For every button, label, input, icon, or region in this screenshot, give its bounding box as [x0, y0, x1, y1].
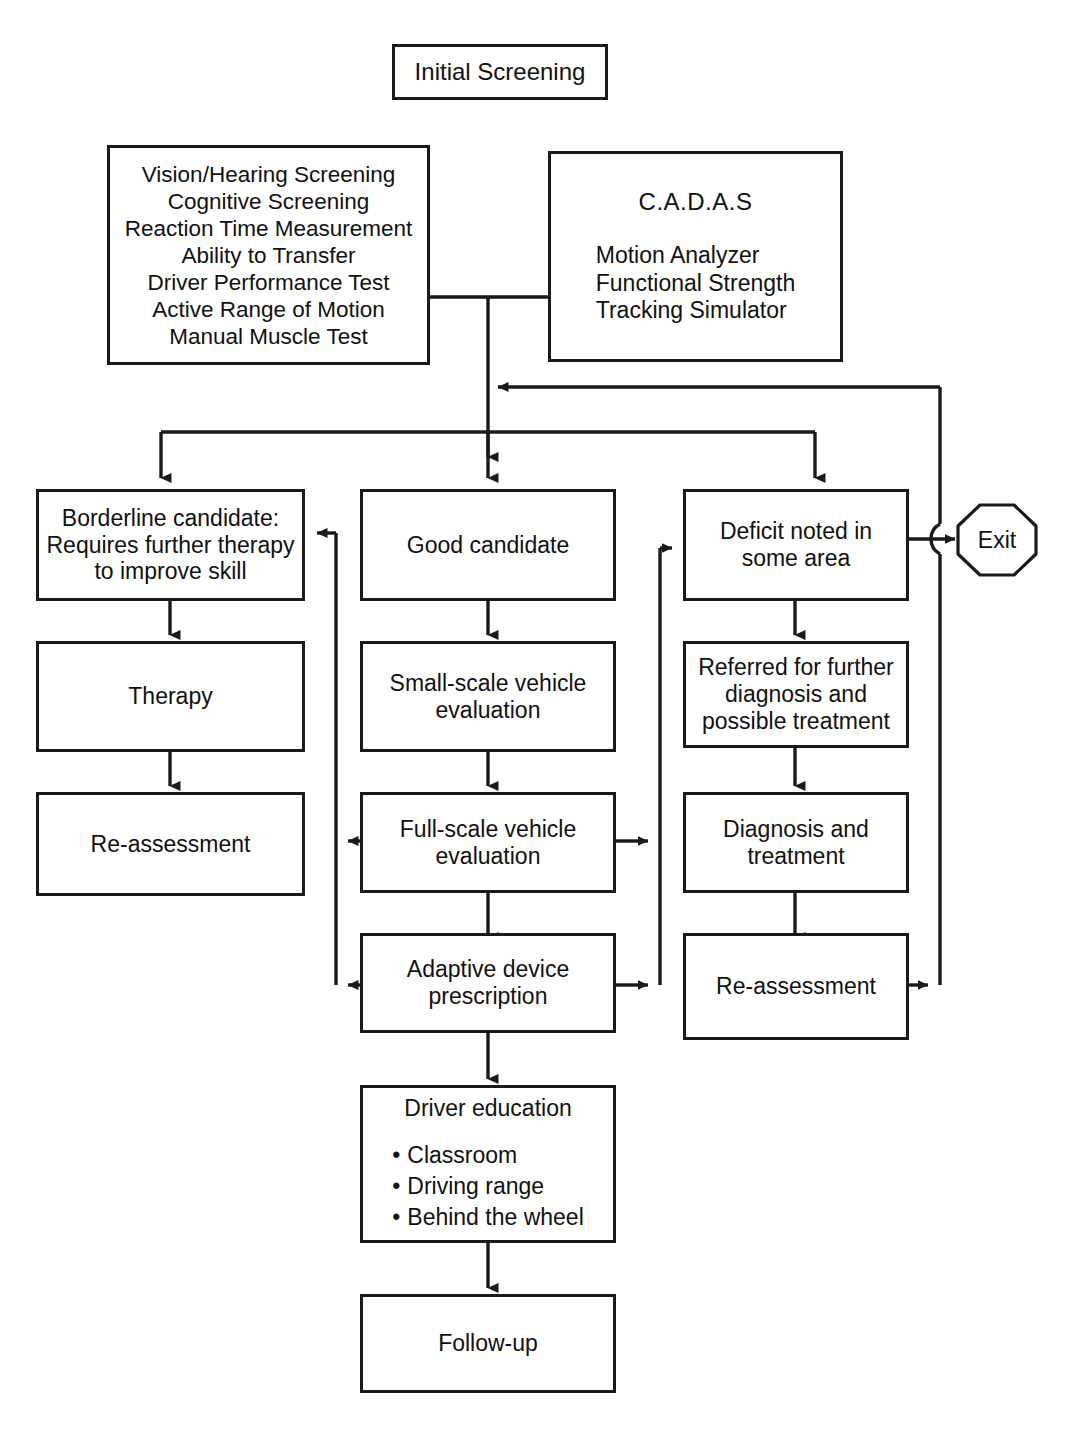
good-candidate-label: Good candidate [407, 532, 569, 559]
exit-label: Exit [978, 527, 1016, 554]
adaptive-line: prescription [429, 983, 548, 1010]
screening-item: Active Range of Motion [125, 296, 413, 323]
driver-education-item: •Classroom [392, 1140, 584, 1171]
full-scale-line: Full-scale vehicle [400, 816, 576, 843]
node-cadas[interactable]: C.A.D.A.S Motion Analyzer Functional Str… [548, 151, 843, 362]
cadas-item: Functional Strength [596, 270, 795, 298]
screening-tests-list: Vision/Hearing Screening Cognitive Scree… [125, 161, 413, 350]
therapy-label: Therapy [128, 683, 212, 710]
node-referred-for-diagnosis[interactable]: Referred for further diagnosis and possi… [683, 641, 909, 748]
node-reassessment-left[interactable]: Re-assessment [36, 792, 305, 896]
node-adaptive-device-prescription[interactable]: Adaptive device prescription [360, 933, 616, 1033]
node-good-candidate[interactable]: Good candidate [360, 489, 616, 601]
node-small-scale-evaluation[interactable]: Small-scale vehicle evaluation [360, 641, 616, 752]
wire-return-riser-left [317, 533, 360, 985]
driver-education-heading: Driver education [404, 1095, 571, 1122]
node-screening-tests[interactable]: Vision/Hearing Screening Cognitive Scree… [107, 145, 430, 365]
bullet-icon: • [392, 1173, 400, 1199]
small-scale-line: evaluation [436, 697, 541, 724]
borderline-line: Borderline candidate: [62, 505, 279, 532]
node-exit[interactable]: Exit [956, 503, 1038, 577]
cadas-item: Tracking Simulator [596, 297, 795, 325]
wire-line-jump-arc [931, 524, 940, 554]
flowchart-canvas: Initial Screening Vision/Hearing Screeni… [0, 0, 1066, 1429]
bullet-icon: • [392, 1142, 400, 1168]
deficit-line: some area [742, 545, 851, 572]
borderline-line: Requires further therapy [46, 532, 294, 559]
initial-screening-label: Initial Screening [415, 58, 586, 86]
follow-up-label: Follow-up [438, 1330, 538, 1357]
node-therapy[interactable]: Therapy [36, 641, 305, 752]
deficit-line: Deficit noted in [720, 518, 872, 545]
screening-item: Cognitive Screening [125, 188, 413, 215]
bullet-icon: • [392, 1204, 400, 1230]
driver-education-list: •Classroom •Driving range •Behind the wh… [392, 1140, 584, 1233]
node-diagnosis-and-treatment[interactable]: Diagnosis and treatment [683, 792, 909, 893]
wire-screening-merge-bar [430, 297, 548, 457]
diagnosis-line: treatment [747, 843, 844, 870]
node-driver-education[interactable]: Driver education •Classroom •Driving ran… [360, 1085, 616, 1243]
referred-line: Referred for further [698, 654, 894, 681]
node-follow-up[interactable]: Follow-up [360, 1294, 616, 1393]
cadas-item: Motion Analyzer [596, 242, 795, 270]
node-full-scale-evaluation[interactable]: Full-scale vehicle evaluation [360, 792, 616, 893]
screening-item: Driver Performance Test [125, 269, 413, 296]
driver-education-item: •Behind the wheel [392, 1202, 584, 1233]
screening-item: Manual Muscle Test [125, 323, 413, 350]
small-scale-line: Small-scale vehicle [390, 670, 587, 697]
wire-far-right-return [909, 387, 940, 985]
full-scale-line: evaluation [436, 843, 541, 870]
node-initial-screening[interactable]: Initial Screening [392, 44, 608, 100]
wire-distribution-bar [161, 432, 815, 478]
cadas-item-list: Motion Analyzer Functional Strength Trac… [596, 242, 795, 325]
screening-item: Vision/Hearing Screening [125, 161, 413, 188]
screening-item: Ability to Transfer [125, 242, 413, 269]
referred-line: possible treatment [702, 708, 890, 735]
cadas-heading: C.A.D.A.S [639, 188, 753, 216]
reassessment-left-label: Re-assessment [91, 831, 251, 858]
node-deficit-noted[interactable]: Deficit noted in some area [683, 489, 909, 601]
diagnosis-line: Diagnosis and [723, 816, 869, 843]
node-borderline-candidate[interactable]: Borderline candidate: Requires further t… [36, 489, 305, 601]
wire-return-riser-right [616, 548, 672, 985]
node-reassessment-right[interactable]: Re-assessment [683, 933, 909, 1040]
borderline-line: to improve skill [94, 558, 246, 585]
adaptive-line: Adaptive device [407, 956, 569, 983]
driver-education-item: •Driving range [392, 1171, 584, 1202]
reassessment-right-label: Re-assessment [716, 973, 876, 1000]
referred-line: diagnosis and [725, 681, 867, 708]
screening-item: Reaction Time Measurement [125, 215, 413, 242]
